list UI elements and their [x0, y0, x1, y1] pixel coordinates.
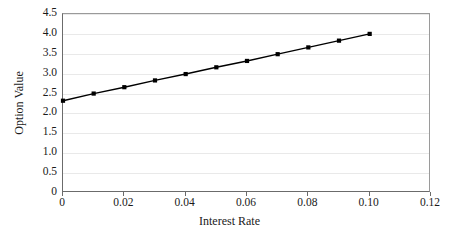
x-axis-tick-label: 0.10	[359, 197, 379, 209]
x-axis-label: Interest Rate	[0, 214, 459, 229]
x-axis-tick-label: 0	[59, 197, 65, 209]
data-point-marker	[276, 52, 280, 56]
y-axis-tick-label: 0	[30, 186, 57, 198]
data-point-marker	[306, 45, 310, 49]
x-axis-tick-label: 0.02	[113, 197, 133, 209]
x-axis-tick-label: 0.08	[297, 197, 317, 209]
x-axis-tick-label: 0.06	[236, 197, 256, 209]
y-axis-tick-label: 2.5	[30, 87, 57, 99]
y-axis-tick-label: 3.5	[30, 47, 57, 59]
data-point-marker	[61, 99, 65, 103]
y-axis-label-wrap: Option Value	[14, 13, 28, 192]
y-axis-tick-label: 1.5	[30, 126, 57, 138]
y-axis-tick-label: 0.5	[30, 166, 57, 178]
x-axis-tick-label: 0.12	[420, 197, 440, 209]
y-axis-tick-label: 2.0	[30, 106, 57, 118]
line-series	[63, 14, 431, 193]
data-point-marker	[92, 91, 96, 95]
x-axis-tick-label: 0.04	[175, 197, 195, 209]
data-point-marker	[245, 59, 249, 63]
data-point-marker	[214, 65, 218, 69]
data-point-marker	[122, 85, 126, 89]
y-axis-tick-label: 4.0	[30, 27, 57, 39]
y-axis-tick-label: 1.0	[30, 146, 57, 158]
data-point-marker	[184, 72, 188, 76]
series-markers	[61, 32, 372, 103]
y-axis-tick-label: 4.5	[30, 7, 57, 19]
data-point-marker	[368, 32, 372, 36]
y-axis-label: Option Value	[12, 71, 27, 134]
plot-area	[62, 13, 430, 192]
data-point-marker	[337, 39, 341, 43]
y-axis-tick-label: 3.0	[30, 67, 57, 79]
option-value-vs-interest-rate-chart: 00.51.01.52.02.53.03.54.04.5 Option Valu…	[0, 0, 459, 237]
data-point-marker	[153, 78, 157, 82]
